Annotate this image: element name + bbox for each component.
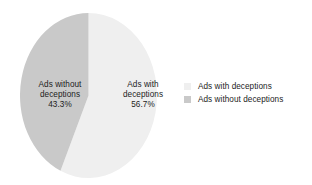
legend-item-label: Ads with deceptions [198,82,272,91]
pie-chart-plot-area: Ads without deceptions 43.3% Ads with de… [20,13,157,178]
chart-legend: Ads with deceptions Ads without deceptio… [184,80,308,106]
legend-item-ads-with-deceptions[interactable]: Ads with deceptions [184,80,308,93]
pie-chart-figure: Ads without deceptions 43.3% Ads with de… [0,0,312,185]
legend-swatch-icon [184,96,191,103]
legend-item-label: Ads without deceptions [198,95,283,104]
legend-item-ads-without-deceptions[interactable]: Ads without deceptions [184,93,308,106]
legend-swatch-icon [184,83,191,90]
pie-chart-svg [20,13,157,178]
